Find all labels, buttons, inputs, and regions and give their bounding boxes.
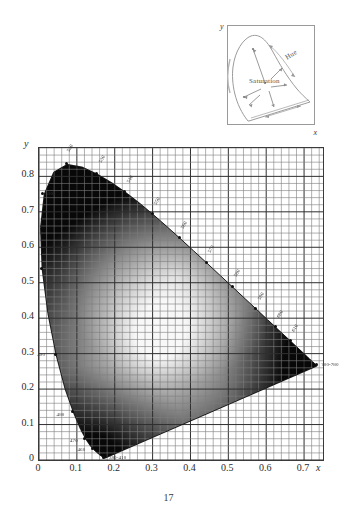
y-axis-title: y: [24, 138, 28, 149]
y-tick-label: 0.7: [0, 204, 34, 215]
y-tick-label: 0.2: [0, 381, 34, 392]
wavelength-label: 380-410: [109, 455, 126, 460]
spectral-locus: [39, 148, 323, 460]
wavelength-label: 700-780: [321, 362, 338, 367]
wavelength-label: 490: [37, 352, 45, 357]
wavelength-label: 510: [45, 191, 53, 196]
wavelength-marker: [95, 172, 98, 175]
x-tick-label: 0.1: [61, 462, 91, 473]
y-tick-label: 0.4: [0, 310, 34, 321]
wavelength-label: 470: [70, 438, 78, 443]
y-tick-label: 0.3: [0, 346, 34, 357]
wavelength-label: 480: [57, 412, 65, 417]
x-tick-label: 0.6: [250, 462, 280, 473]
y-tick-label: 0.6: [0, 239, 34, 250]
hue-saturation-inset: y: [220, 20, 317, 137]
figure-number: 17: [0, 492, 337, 503]
inset-y-axis-label: y: [220, 22, 224, 31]
x-tick-label: 0.4: [174, 462, 204, 473]
y-tick-label: 0.5: [0, 275, 34, 286]
plot-area: [38, 147, 324, 461]
inset-saturation-label: Saturation: [249, 77, 280, 85]
x-tick-label: 0.5: [212, 462, 242, 473]
wavelength-label: 460: [78, 447, 86, 452]
wavelength-marker: [41, 192, 44, 195]
wavelength-label: 500: [45, 265, 53, 270]
wavelength-marker: [65, 162, 68, 165]
wavelength-marker: [178, 236, 181, 239]
x-tick-label: 0.7: [288, 462, 318, 473]
x-tick-label: 0: [23, 462, 53, 473]
wavelength-marker: [151, 212, 154, 215]
cie-chromaticity-chart: y x 00.10.20.30.40.50.60.70.8 00.10.20.3…: [0, 140, 337, 480]
wavelength-marker: [54, 353, 57, 356]
y-tick-label: 0.1: [0, 417, 34, 428]
wavelength-marker: [91, 447, 94, 450]
x-tick-label: 0.3: [137, 462, 167, 473]
wavelength-marker: [289, 339, 292, 342]
wavelength-marker: [205, 261, 208, 264]
y-tick-label: 0.8: [0, 168, 34, 179]
inset-chromaticity-outline: [227, 25, 315, 125]
inset-x-axis-label: x: [313, 128, 317, 137]
wavelength-marker: [231, 285, 234, 288]
x-tick-label: 0.2: [99, 462, 129, 473]
wavelength-marker: [40, 267, 43, 270]
